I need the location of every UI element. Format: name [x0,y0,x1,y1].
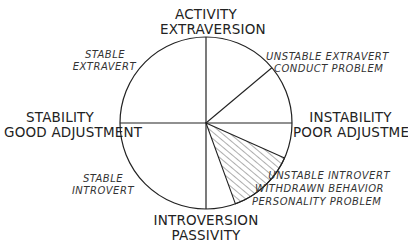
axis-top-line-1: ACTIVITY [160,8,252,22]
personality-circle-diagram: ACTIVITY EXTRAVERSION INTROVERSION PASSI… [0,0,408,251]
axis-label-top: ACTIVITY EXTRAVERSION [160,8,252,36]
axis-right-line-2: POOR ADJUSTMENT [293,126,408,140]
stable-introvert-line-1: STABLE [58,174,134,184]
stable-extravert-line-2: EXTRAVERT [60,62,136,72]
axis-label-bottom: INTROVERSION PASSIVITY [152,214,260,242]
quadrant-label-stable-extravert: STABLE EXTRAVERT [60,50,136,72]
unstable-introvert-line-3: PERSONALITY PROBLEM [252,197,392,207]
unstable-extravert-line-1: UNSTABLE EXTRAVERT [266,52,389,62]
axis-right-line-1: INSTABILITY [293,111,408,125]
quadrant-label-unstable-introvert: UNSTABLE INTROVERT WITHDRAWN BEHAVIOR PE… [252,171,392,207]
axis-left-line-2: GOOD ADJUSTMENT [4,126,116,140]
axis-label-left: STABILITY GOOD ADJUSTMENT [4,111,116,139]
axis-top-line-2: EXTRAVERSION [160,23,252,37]
axis-left-line-1: STABILITY [4,111,116,125]
quadrant-label-stable-introvert: STABLE INTROVERT [58,174,134,196]
unstable-extravert-line-2: CONDUCT PROBLEM [266,64,389,74]
axis-bottom-line-2: PASSIVITY [152,229,260,243]
stable-extravert-line-1: STABLE [60,50,136,60]
stable-introvert-line-2: INTROVERT [58,186,134,196]
axis-bottom-line-1: INTROVERSION [152,214,260,228]
quadrant-label-unstable-extravert: UNSTABLE EXTRAVERT CONDUCT PROBLEM [266,52,389,74]
upper-right-radial-line [206,68,272,123]
unstable-introvert-line-1: UNSTABLE INTROVERT [252,171,392,181]
unstable-introvert-line-2: WITHDRAWN BEHAVIOR [252,184,392,194]
axis-label-right: INSTABILITY POOR ADJUSTMENT [293,111,408,139]
